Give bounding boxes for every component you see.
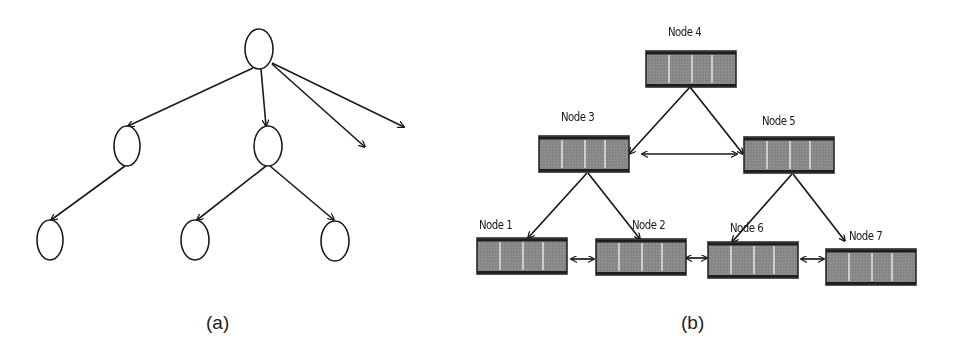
edge-node4-node5 [690, 87, 743, 154]
caption-b: (b) [681, 312, 704, 334]
panel-a-tree [37, 29, 404, 261]
node-2-label: Node 2 [632, 217, 665, 232]
node-5-label: Node 5 [762, 113, 795, 128]
edge-child-middle-leaf-3 [270, 166, 334, 220]
caption-a: (a) [206, 312, 229, 334]
tree-node-child-left [114, 126, 140, 166]
node-4-array-box [646, 51, 736, 87]
node-5-array-box [744, 137, 834, 173]
node-2-array-box [596, 239, 686, 275]
figure [0, 0, 956, 360]
node-7-label: Node 7 [849, 228, 882, 243]
tree-node-root [245, 29, 273, 69]
edge-root-dangling-2 [272, 63, 404, 127]
node-6-array-box [708, 242, 798, 278]
node-1-label: Node 1 [479, 217, 512, 232]
node-3-array-box [539, 136, 629, 172]
tree-node-leaf-3 [321, 221, 349, 261]
edge-node3-node1 [528, 173, 587, 238]
node-4-label: Node 4 [668, 24, 701, 39]
node-6-label: Node 6 [730, 220, 763, 235]
edge-node4-node3 [629, 87, 690, 154]
edge-root-dangling-1 [272, 64, 365, 147]
tree-node-leaf-2 [181, 220, 209, 260]
node-1-array-box [477, 238, 567, 274]
edge-child-middle-leaf-2 [197, 166, 266, 220]
edge-node5-node7 [793, 174, 845, 241]
edge-root-child-left [128, 68, 253, 126]
edge-child-left-leaf-1 [51, 166, 125, 220]
node-3-label: Node 3 [561, 109, 594, 124]
tree-node-leaf-1 [37, 220, 63, 260]
edge-root-child-middle [261, 69, 266, 126]
panel-b-array-nodes [477, 51, 916, 285]
node-7-array-box [826, 249, 916, 285]
tree-node-child-middle [254, 126, 282, 166]
